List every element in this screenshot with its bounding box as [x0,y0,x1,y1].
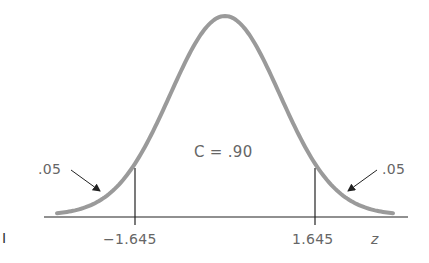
left-tail-label: .05 [38,162,61,176]
right-tail-arrow [348,170,377,191]
margin-mark: I [2,231,6,245]
z-axis-label: z [371,232,379,246]
confidence-label: C = .90 [194,145,253,159]
right-critical-value: 1.645 [292,232,334,246]
left-tail-arrow [71,170,100,191]
bell-curve-graphic [0,0,429,263]
normal-distribution-figure: C = .90 .05 .05 −1.645 1.645 z I [0,0,429,263]
normal-curve [57,16,393,213]
right-tail-label: .05 [382,162,405,176]
left-critical-value: −1.645 [103,232,157,246]
